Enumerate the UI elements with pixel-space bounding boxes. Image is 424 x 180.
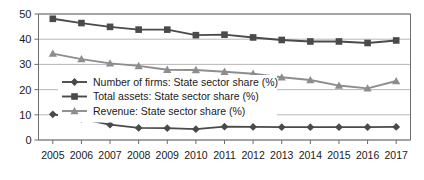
x-tick-label: 2005 [41,149,65,161]
data-point-marker [364,40,371,47]
x-tick-label: 2011 [213,149,236,161]
data-point-marker [307,38,314,45]
data-point-marker [336,38,343,45]
x-tick-label: 2007 [98,149,122,161]
chart-container: 01020304050 2005200620072008200920102011… [0,0,424,180]
legend-item-1[interactable]: Number of firms: State sector share (%) [62,76,278,88]
data-point-marker [107,24,114,31]
y-tick-label: 50 [19,8,31,20]
x-tick-label: 2014 [299,149,323,161]
data-point-marker [278,37,285,44]
data-point-marker [78,20,85,27]
x-tick-label: 2012 [241,149,265,161]
legend-marker-square-icon [71,93,78,100]
x-tick-label: 2013 [270,149,294,161]
x-tick-label: 2017 [385,149,409,161]
x-tick-label: 2016 [356,149,380,161]
y-tick-label: 20 [19,84,31,96]
x-tick-label: 2008 [127,149,151,161]
x-tick-label: 2015 [327,149,351,161]
data-point-marker [135,26,142,33]
data-point-marker [50,15,57,22]
data-point-marker [193,32,200,39]
data-point-marker [250,34,257,41]
legend-item-label: Total assets: State sector share (%) [93,90,259,102]
data-point-marker [221,31,228,38]
y-tick-label: 30 [19,58,31,70]
data-point-marker [164,26,171,33]
legend-item-label: Number of firms: State sector share (%) [93,76,278,88]
x-tick-label: 2006 [70,149,94,161]
y-tick-label: 10 [19,109,31,121]
y-tick-label: 40 [19,33,31,45]
legend-item-label: Revenue: State sector share (%) [93,105,245,117]
y-tick-label: 0 [25,134,31,146]
x-tick-label: 2010 [184,149,208,161]
data-point-marker [393,37,400,44]
x-tick-label: 2009 [156,149,180,161]
line-chart: 01020304050 2005200620072008200920102011… [0,0,424,180]
chart-legend: Number of firms: State sector share (%)T… [58,75,278,123]
